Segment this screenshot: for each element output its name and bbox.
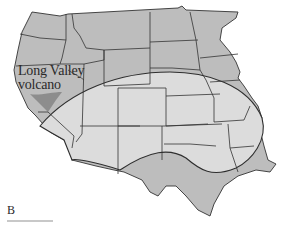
us-map [0,0,284,225]
caption-fragment [7,220,53,222]
panel-label: B [7,203,15,218]
volcano-annotation: Long Valley volcano [18,64,84,92]
volcano-label-line1: Long Valley [18,64,84,78]
volcano-label-line2: volcano [18,78,84,92]
